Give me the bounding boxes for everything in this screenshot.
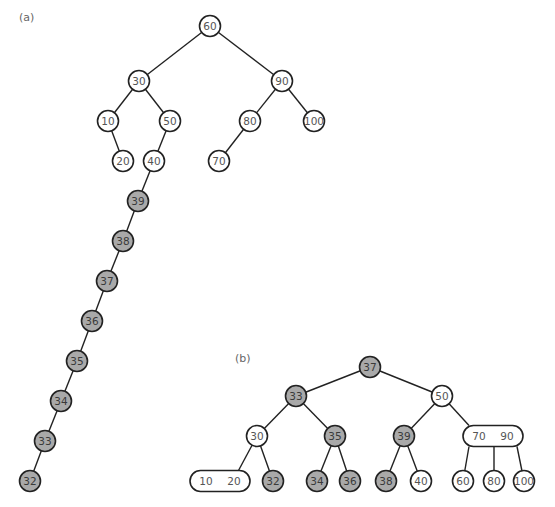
node-label: 35	[328, 430, 341, 442]
node-label: 32	[266, 475, 279, 487]
tree-node: 35	[325, 426, 346, 447]
node-label: 70	[212, 155, 225, 167]
node-label: 34	[54, 395, 68, 407]
tree-node: 34	[307, 471, 328, 492]
tree-node: 38	[376, 471, 397, 492]
tree-node: 35	[67, 351, 88, 372]
tree-edge	[296, 367, 370, 396]
tree-edge	[370, 367, 442, 396]
tree-node: 100	[514, 471, 535, 492]
tree-node: 39	[128, 191, 149, 212]
node-label: 50	[163, 115, 176, 127]
node-label: 39	[131, 195, 144, 207]
node-label: 80	[487, 475, 500, 487]
node-label: 38	[379, 475, 392, 487]
node-label: 33	[38, 435, 51, 447]
node-label: 39	[397, 430, 410, 442]
panel-b-label: (b)	[235, 352, 251, 365]
tree-node: 80	[240, 111, 261, 132]
node-label: 80	[243, 115, 256, 127]
tree-node: 34	[51, 391, 72, 412]
tree-node: 32	[263, 471, 284, 492]
node-label: 38	[116, 235, 129, 247]
node-label: 34	[310, 475, 324, 487]
tree-node: 36	[82, 311, 103, 332]
node-label: 35	[70, 355, 83, 367]
tree-node: 7090	[463, 426, 523, 447]
node-label: 33	[289, 390, 302, 402]
node-label: 90	[500, 430, 513, 442]
node-label: 36	[343, 475, 357, 487]
tree-edge	[210, 26, 282, 81]
tree-node: 90	[272, 71, 293, 92]
tree-node: 32	[20, 471, 41, 492]
tree-diagram: (a) (b) 60309010508010020407039383736353…	[0, 0, 555, 507]
node-label: 37	[100, 275, 113, 287]
tree-node: 60	[453, 471, 474, 492]
tree-node: 33	[286, 386, 307, 407]
tree-node: 30	[247, 426, 268, 447]
tree-node: 20	[113, 151, 134, 172]
tree-node: 38	[113, 231, 134, 252]
tree-node: 70	[209, 151, 230, 172]
edges-layer	[30, 26, 524, 481]
node-label: 60	[203, 20, 216, 32]
tree-node: 37	[97, 271, 118, 292]
tree-node: 30	[129, 71, 150, 92]
tree-node: 80	[484, 471, 505, 492]
tree-node: 60	[200, 16, 221, 37]
node-label: 100	[304, 115, 324, 127]
tree-node: 36	[340, 471, 361, 492]
tree-node: 40	[144, 151, 165, 172]
tree-node: 39	[394, 426, 415, 447]
tree-node: 10	[98, 111, 119, 132]
tree-node: 50	[160, 111, 181, 132]
node-label: 100	[514, 475, 534, 487]
node-label: 70	[472, 430, 485, 442]
node-label: 37	[363, 361, 376, 373]
tree-node: 33	[35, 431, 56, 452]
tree-node: 50	[432, 386, 453, 407]
node-label: 50	[435, 390, 448, 402]
node-label: 40	[414, 475, 427, 487]
tree-node: 1020	[190, 471, 250, 492]
node-label: 10	[199, 475, 212, 487]
tree-node: 100	[304, 111, 325, 132]
panel-a-label: (a)	[19, 11, 34, 24]
tree-node: 40	[411, 471, 432, 492]
nodes-layer: 6030901050801002040703938373635343332373…	[20, 16, 535, 492]
node-label: 32	[23, 475, 36, 487]
node-label: 60	[456, 475, 469, 487]
node-label: 20	[116, 155, 129, 167]
node-label: 40	[147, 155, 160, 167]
node-label: 90	[275, 75, 288, 87]
node-label: 30	[250, 430, 263, 442]
tree-node: 37	[360, 357, 381, 378]
node-label: 10	[101, 115, 114, 127]
node-label: 20	[227, 475, 240, 487]
node-label: 30	[132, 75, 145, 87]
tree-edge	[139, 26, 210, 81]
node-label: 36	[85, 315, 99, 327]
